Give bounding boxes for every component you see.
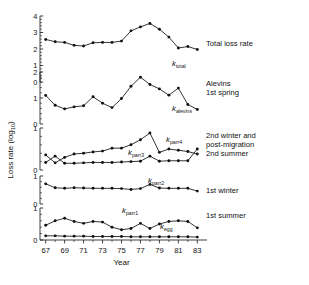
data-point-k_parr1 — [139, 222, 142, 225]
legend-alevins-line2: 1st spring — [206, 88, 239, 97]
data-point-k_total — [186, 45, 189, 48]
panel-parr34: 01 — [33, 124, 198, 175]
series-line-k_total — [46, 23, 198, 49]
data-point-k_parr4 — [158, 160, 161, 163]
data-point-k_total — [196, 48, 199, 51]
data-point-k_egg — [63, 235, 66, 238]
data-point-k_total — [101, 41, 104, 44]
data-point-k_total — [139, 25, 142, 28]
data-point-k_parr2 — [111, 187, 114, 190]
data-point-k_parr2 — [120, 187, 123, 190]
data-point-k_total — [120, 40, 123, 43]
data-point-k_egg — [158, 235, 161, 238]
panel-total-ytick-label: 3 — [33, 28, 37, 37]
data-point-k_parr1 — [92, 220, 95, 223]
legend-parr2-line1: 1st winter — [206, 186, 239, 195]
data-point-k_total — [167, 36, 170, 39]
legend-parr34-line3: 2nd summer — [206, 149, 256, 158]
legend-total-line1: Total loss rate — [206, 39, 253, 48]
data-point-k_total — [82, 45, 85, 48]
data-point-k_parr3 — [54, 161, 57, 164]
data-point-k_total — [73, 44, 76, 47]
data-point-k_total — [130, 29, 133, 32]
data-point-k_parr1 — [54, 219, 57, 222]
data-point-k_parr2 — [54, 186, 57, 189]
data-point-k_parr3 — [186, 150, 189, 153]
data-point-k_parr4 — [54, 155, 57, 158]
data-point-k_parr1 — [130, 227, 133, 230]
series-label-k-egg: kegg — [160, 222, 173, 232]
data-point-k_egg — [82, 235, 85, 238]
data-point-k_parr3 — [101, 150, 104, 153]
data-point-k_parr4 — [167, 159, 170, 162]
xtick-label: 83 — [193, 246, 201, 255]
x-axis: 676971737577798183Year — [40, 240, 207, 267]
data-point-k_egg — [196, 236, 199, 239]
data-point-k_egg — [139, 235, 142, 238]
data-point-k_alevins — [63, 107, 66, 110]
data-point-k_parr2 — [186, 187, 189, 190]
data-point-k_parr2 — [177, 187, 180, 190]
series-label-k-parr4: kparr4 — [166, 135, 182, 145]
data-point-k_parr4 — [44, 161, 47, 164]
data-point-k_total — [111, 41, 114, 44]
xtick-label: 67 — [41, 246, 49, 255]
data-point-k_egg — [130, 235, 133, 238]
data-point-k_alevins — [158, 87, 161, 90]
data-point-k_parr1 — [101, 221, 104, 224]
series-label-k-parr1-sub: parr1 — [126, 210, 138, 216]
series-label-k-parr3-sub: parr3 — [132, 152, 144, 158]
data-point-k_alevins — [196, 108, 199, 111]
panel-total: 01234 — [33, 12, 198, 87]
series-label-k-total: ktotal — [172, 59, 186, 69]
data-point-k_alevins — [44, 94, 47, 97]
panel-total-ytick-label: 4 — [33, 12, 37, 21]
data-point-k_parr4 — [63, 162, 66, 165]
panel-parr2: 01 — [33, 172, 198, 209]
data-point-k_parr1 — [111, 226, 114, 229]
data-point-k_egg — [54, 234, 57, 237]
legend-parr34-line2: post-migration — [206, 140, 256, 149]
data-point-k_alevins — [177, 87, 180, 90]
data-point-k_parr3 — [82, 152, 85, 155]
series-label-k-parr3: kparr3 — [128, 148, 144, 158]
figure-root: 01234012010101676971737577798183YearLoss… — [0, 0, 309, 285]
data-point-k_alevins — [73, 105, 76, 108]
data-point-k_parr2 — [130, 188, 133, 191]
data-point-k_parr2 — [44, 182, 47, 185]
data-point-k_alevins — [167, 94, 170, 97]
y-axis-label: Loss rate (log10) — [6, 121, 16, 179]
xtick-label: 73 — [98, 246, 106, 255]
legend-parr34-line1: 2nd winter and — [206, 131, 256, 140]
panel-parr1-ytick-label: 1 — [33, 204, 37, 213]
data-point-k_egg — [148, 235, 151, 238]
panel-alevins-ytick-label: 2 — [33, 68, 37, 77]
panel-alevins: 012 — [33, 68, 198, 129]
data-point-k_parr2 — [101, 187, 104, 190]
data-point-k_parr2 — [82, 187, 85, 190]
data-point-k_parr1 — [120, 228, 123, 231]
xtick-label: 79 — [155, 246, 163, 255]
data-point-k_parr1 — [63, 217, 66, 220]
data-point-k_total — [54, 40, 57, 43]
data-point-k_parr3 — [92, 150, 95, 153]
series-label-k-parr2: kparr2 — [148, 176, 164, 186]
data-point-k_parr3 — [139, 138, 142, 141]
series-line-k_parr1 — [46, 218, 198, 230]
data-point-k_parr4 — [196, 148, 199, 151]
data-point-k_parr3 — [177, 149, 180, 152]
data-point-k_parr2 — [92, 187, 95, 190]
legend-total: Total loss rate — [206, 39, 253, 48]
data-point-k_parr1 — [44, 224, 47, 227]
data-point-k_parr2 — [196, 190, 199, 193]
data-point-k_total — [177, 47, 180, 50]
data-point-k_alevins — [82, 104, 85, 107]
data-point-k_alevins — [101, 102, 104, 105]
xtick-label: 77 — [136, 246, 144, 255]
series-label-k-egg-sub: egg — [164, 226, 173, 232]
y-axis-label-text: Loss rate (log10) — [6, 121, 16, 179]
data-point-k_parr3 — [63, 156, 66, 159]
data-point-k_parr3 — [148, 132, 151, 135]
legend-parr1-line1: 1st summer — [206, 211, 246, 220]
data-point-k_parr4 — [82, 161, 85, 164]
